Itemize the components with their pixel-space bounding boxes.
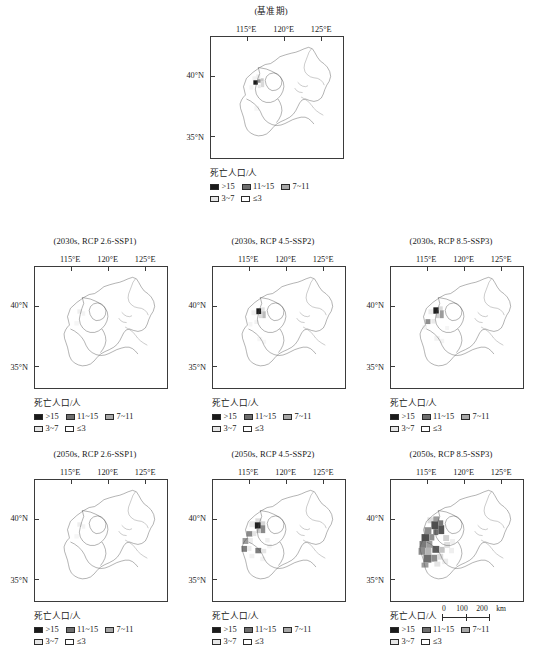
legend-title: 死亡人口/人 [34,611,140,622]
legend-label-7-11: 7~11 [473,411,490,422]
lat-axis-labels-left-2050-rcp45: 40°N 35°N [186,479,210,602]
map-frame-2050-rcp26 [34,479,168,602]
panel-baseline: (基准期) 115°E 120°E 125°E 40°N 35°N [186,6,356,226]
legend-2030-rcp26: 死亡人口/人 >15 11~15 7~11 3~7 [34,398,140,435]
legend-item-3-7: 3~7 [390,636,414,647]
lat-tick-label-35n: 35°N [10,575,28,584]
legend-item-gt15: >15 [390,411,415,422]
coastline-baseline [295,49,325,115]
legend-item-3-7: 3~7 [210,193,234,204]
map-area-2050-rcp26: 115°E 120°E 125°E 40°N 35°N [34,467,168,602]
legend-label-le3: ≤3 [255,636,264,647]
legend-swatch-le3 [241,196,250,202]
lat-tick-label-40n: 40°N [188,301,206,310]
legend-label-3-7: 3~7 [402,423,415,434]
map-area-baseline: 115°E 120°E 125°E 40°N 35°N [210,24,344,159]
map-area-2050-rcp85: 115°E 120°E 125°E 40°N 35°N [390,467,524,602]
legend-swatch-11-15 [66,414,75,420]
legend-2030-rcp85: 死亡人口/人 >15 11~15 7~11 3~7 [390,398,496,435]
panel-title-2030-rcp45: (2030s, RCP 4.5-SSP2) [188,236,358,246]
legend-label-gt15: >15 [224,411,237,422]
legend-item-7-11: 7~11 [461,624,489,635]
legend-label-7-11: 7~11 [295,624,312,635]
legend-label-11-15: 11~15 [255,411,276,422]
legend-label-11-15: 11~15 [433,411,454,422]
coastline-2050-rcp45 [297,492,327,558]
panel-title-2030-rcp26: (2030s, RCP 2.6-SSP1) [10,236,180,246]
legend-row-top: >15 11~15 7~11 [390,624,496,635]
legend-swatch-le3 [243,426,252,432]
lat-tick-label-35n: 35°N [366,362,384,371]
scale-bar-unit: km [496,604,506,613]
legend-swatch-3-7 [212,639,221,645]
legend-label-11-15: 11~15 [77,411,98,422]
scale-bar-tick-200 [489,614,490,621]
panel-title-2050-rcp26: (2050s, RCP 2.6-SSP1) [10,449,180,459]
legend-swatch-7-11 [105,414,114,420]
legend-swatch-7-11 [283,414,292,420]
legend-item-7-11: 7~11 [283,411,311,422]
legend-label-gt15: >15 [222,181,235,192]
map-geometry-2050-rcp85 [391,480,523,601]
lon-tick-label-125e: 125°E [313,467,334,479]
legend-swatch-11-15 [244,414,253,420]
legend-label-3-7: 3~7 [224,423,237,434]
legend-2050-rcp45: 死亡人口/人 >15 11~15 7~11 3~7 [212,611,318,648]
legend-label-3-7: 3~7 [224,636,237,647]
legend-label-3-7: 3~7 [46,636,59,647]
panel-2050-rcp45: (2050s, RCP 4.5-SSP2) 115°E 120°E 125°E … [178,449,358,649]
legend-swatch-le3 [65,426,74,432]
legend-item-le3: ≤3 [65,636,85,647]
legend-item-3-7: 3~7 [212,423,236,434]
lon-tick-label-115e: 115°E [236,24,257,36]
legend-label-3-7: 3~7 [46,423,59,434]
legend-label-11-15: 11~15 [253,181,274,192]
legend-item-11-15: 11~15 [422,624,454,635]
lon-axis-labels-2030-rcp26: 115°E 120°E 125°E [34,254,168,266]
legend-title: 死亡人口/人 [390,398,496,409]
coastline-2050-rcp26 [119,492,149,558]
lon-tick-label-120e: 120°E [453,254,474,266]
legend-swatch-le3 [65,639,74,645]
lon-tick-label-125e: 125°E [313,254,334,266]
legend-title: 死亡人口/人 [212,398,318,409]
legend-swatch-gt15 [212,414,221,420]
lon-tick-label-115e: 115°E [416,254,437,266]
legend-label-gt15: >15 [402,411,415,422]
map-geometry-baseline [211,37,343,158]
legend-swatch-11-15 [244,627,253,633]
panel-2030-rcp45: (2030s, RCP 4.5-SSP2) 115°E 120°E 125°E … [178,236,358,436]
legend-item-3-7: 3~7 [212,636,236,647]
lon-tick-label-120e: 120°E [97,467,118,479]
legend-swatch-gt15 [34,627,43,633]
legend-item-7-11: 7~11 [281,181,309,192]
legend-title: 死亡人口/人 [212,611,318,622]
legend-swatch-gt15 [390,627,399,633]
lat-axis-labels-left-baseline: 40°N 35°N [184,36,208,159]
map-geometry-2030-rcp26 [35,267,167,388]
legend-item-gt15: >15 [210,181,235,192]
map-frame-2030-rcp85 [390,266,524,389]
legend-item-gt15: >15 [34,411,59,422]
coastline-2050-rcp85 [475,492,505,558]
legend-swatch-le3 [421,426,430,432]
legend-row-bottom: 3~7 ≤3 [34,423,140,434]
legend-label-3-7: 3~7 [402,636,415,647]
map-frame-2030-rcp45 [212,266,346,389]
lat-axis-labels-left-2030-rcp85: 40°N 35°N [364,266,388,389]
legend-row-top: >15 11~15 7~11 [34,411,140,422]
legend-row-bottom: 3~7 ≤3 [390,636,496,647]
legend-swatch-le3 [421,639,430,645]
lon-tick-label-125e: 125°E [491,467,512,479]
scale-bar: 0 100 200 km [442,604,510,621]
legend-swatch-11-15 [242,184,251,190]
legend-label-7-11: 7~11 [293,181,310,192]
lon-tick-label-115e: 115°E [60,254,81,266]
lon-tick-label-115e: 115°E [238,467,259,479]
legend-label-11-15: 11~15 [433,624,454,635]
map-frame-baseline [210,36,344,159]
panel-2050-rcp85: (2050s, RCP 8.5-SSP3) 115°E 120°E 125°E … [356,449,536,649]
legend-label-11-15: 11~15 [255,624,276,635]
coastline-2030-rcp45 [297,279,327,345]
legend-item-7-11: 7~11 [105,624,133,635]
